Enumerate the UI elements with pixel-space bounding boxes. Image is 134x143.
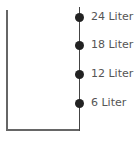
container-bottom xyxy=(6,129,80,131)
mark-dot-18 xyxy=(75,41,84,50)
mark-dot-12 xyxy=(75,70,84,79)
mark-label-6: 6 Liter xyxy=(91,97,126,109)
container-left-wall xyxy=(6,10,8,131)
mark-label-12: 12 Liter xyxy=(91,68,133,80)
mark-dot-24 xyxy=(75,13,84,22)
mark-dot-6 xyxy=(75,99,84,108)
mark-label-24: 24 Liter xyxy=(91,11,133,23)
mark-label-18: 18 Liter xyxy=(91,39,133,51)
